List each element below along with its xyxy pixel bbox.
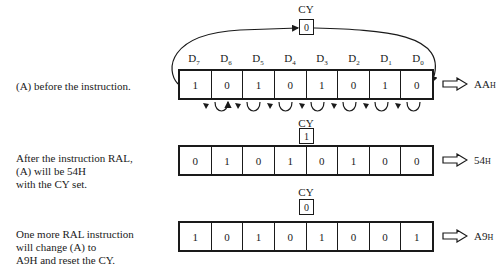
result-value: A9 <box>474 230 487 242</box>
cy-label: CY <box>296 186 316 198</box>
bit-cell-d2: 0 <box>338 71 370 98</box>
bit-cell-d1: 0 <box>370 147 402 174</box>
bit-cell-d6: 0 <box>212 223 244 250</box>
bit-cell-d6: 0 <box>212 71 244 98</box>
bit-cell-d3: 0 <box>307 147 339 174</box>
rotate-arrowheads <box>203 103 401 109</box>
bit-label-d3: D3 <box>306 52 338 67</box>
bit-cell-d4: 0 <box>275 71 307 98</box>
bit-label-d0: D0 <box>402 52 434 67</box>
bit-cell-d0: 0 <box>401 147 432 174</box>
bit-label-d6: D6 <box>210 52 242 67</box>
bit-label-d7: D7 <box>178 52 210 67</box>
bit-cell-d2: 0 <box>338 223 370 250</box>
bit-cell-d3: 1 <box>307 223 339 250</box>
bit-cell-d4: 1 <box>275 147 307 174</box>
bit-cell-d1: 0 <box>370 223 402 250</box>
bit-label-d1: D1 <box>370 52 402 67</box>
bit-cell-d6: 1 <box>212 147 244 174</box>
bit-cell-d5: 0 <box>243 147 275 174</box>
bit-cell-d4: 0 <box>275 223 307 250</box>
result-before: AAH <box>442 77 496 91</box>
hex-suffix: H <box>485 157 491 166</box>
accumulator-register: 1 0 1 0 1 0 1 0 <box>178 69 434 100</box>
cy-flag-box: 1 <box>299 128 314 144</box>
result-after-first-ral: 54H <box>442 153 491 167</box>
bit-cell-d0: 0 <box>401 71 432 98</box>
hollow-right-arrow-icon <box>442 77 468 91</box>
bit-cell-d2: 1 <box>338 147 370 174</box>
hex-suffix: H <box>487 233 493 242</box>
bit-cell-d0: 1 <box>401 223 432 250</box>
cy-label: CY <box>296 3 316 15</box>
result-value: 54 <box>474 154 485 166</box>
cy-flag-box: 0 <box>299 19 314 35</box>
accumulator-register: 0 1 0 1 0 1 0 0 <box>178 145 434 176</box>
bit-cell-d3: 1 <box>307 71 339 98</box>
bit-cell-d7: 0 <box>180 147 212 174</box>
bit-cell-d1: 1 <box>370 71 402 98</box>
hollow-right-arrow-icon <box>442 229 468 243</box>
bit-cell-d7: 1 <box>180 223 212 250</box>
caption-after-second-ral: One more RAL instruction will change (A)… <box>16 228 134 267</box>
hex-suffix: H <box>490 81 496 90</box>
result-value: AA <box>474 78 490 90</box>
accumulator-register: 1 0 1 0 1 0 0 1 <box>178 221 434 252</box>
hollow-right-arrow-icon <box>442 153 468 167</box>
result-after-second-ral: A9H <box>442 229 493 243</box>
bit-label-d5: D5 <box>242 52 274 67</box>
cy-flag-box: 0 <box>299 199 314 215</box>
rotate-arrows <box>215 102 420 111</box>
bit-label-d2: D2 <box>338 52 370 67</box>
bit-cell-d7: 1 <box>180 71 212 98</box>
caption-before: (A) before the instruction. <box>16 80 131 93</box>
bit-cell-d5: 1 <box>243 223 275 250</box>
bit-label-d4: D4 <box>274 52 306 67</box>
bit-cell-d5: 1 <box>243 71 275 98</box>
caption-after-first-ral: After the instruction RAL, (A) will be 5… <box>16 152 133 191</box>
